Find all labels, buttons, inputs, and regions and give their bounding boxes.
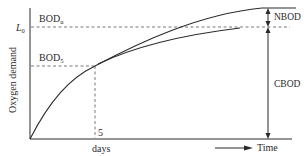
bod-u-label: BODu [39,13,64,25]
time-arrow-head [244,146,253,151]
nbod-label: NBOD [274,12,301,22]
cbod-curve [98,28,240,64]
l0-label: L0 [15,22,25,34]
x-axis-label: days [92,143,110,154]
x-tick-5-label: 5 [98,127,103,138]
cbod-label: CBOD [274,79,301,89]
nbod-arrow-bottom-head [266,21,271,27]
bod5-label: BOD5 [39,52,63,64]
bod-diagram: BODu L0 BOD5 NBOD CBOD 5 days Time Oxyge… [0,0,308,156]
cbod-arrow-bottom-head [266,133,271,139]
total-bod-curve [30,8,296,139]
nbod-arrow-top-head [266,8,271,14]
y-axis-label: Oxygen demand [7,47,18,113]
cbod-arrow-top-head [266,27,271,33]
time-label: Time [257,142,278,153]
